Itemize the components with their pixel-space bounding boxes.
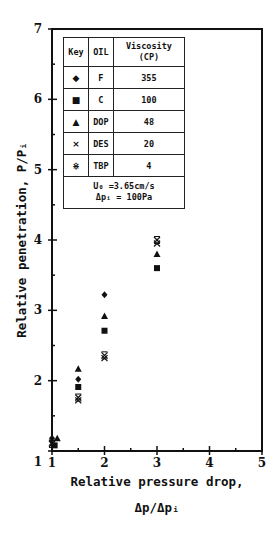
diamond-icon: ◆ — [64, 67, 89, 89]
x-mark-icon: × — [64, 133, 89, 155]
legend-oil: DOP — [89, 111, 114, 133]
x-tick-label: 2 — [100, 456, 108, 470]
legend-viscosity: 4 — [113, 155, 184, 177]
legend-row: ■C100 — [64, 89, 184, 111]
pressure-note: Δpᵢ = 100Pa — [64, 192, 184, 203]
square-icon: ■ — [64, 89, 89, 111]
asterisk-marker — [154, 237, 160, 244]
legend-oil: C — [89, 89, 114, 111]
legend-table: Key OIL Viscosity(CP) ◆F355 ■C100 ▲DOP48… — [63, 37, 185, 209]
legend-viscosity: 48 — [113, 111, 184, 133]
square-marker — [75, 384, 81, 390]
triangle-marker — [101, 312, 108, 319]
legend-viscosity: 20 — [113, 133, 184, 155]
data-points — [49, 237, 161, 449]
legend-viscosity: 100 — [113, 89, 184, 111]
velocity-note: U₀ =3.65cm/s — [64, 181, 184, 192]
y-tick-label: 5 — [34, 163, 42, 177]
legend-note: U₀ =3.65cm/s Δpᵢ = 100Pa — [64, 177, 184, 208]
legend-row: ×DES20 — [64, 133, 184, 155]
legend-oil: TBP — [89, 155, 114, 177]
corner-label: 1 — [34, 455, 42, 469]
legend-header-viscosity: Viscosity(CP) — [113, 38, 184, 67]
y-tick-label: 6 — [34, 92, 42, 106]
y-tick-label: 7 — [34, 22, 42, 36]
x-tick-label: 4 — [205, 456, 213, 470]
x-tick-label: 3 — [153, 456, 161, 470]
y-axis-title: Relative penetration, P/Pᵢ — [14, 142, 29, 338]
legend-row: ◆F355 — [64, 67, 184, 89]
triangle-marker — [154, 251, 161, 258]
viscosity-unit: (CP) — [139, 52, 159, 62]
y-tick-label: 2 — [34, 374, 42, 388]
legend-oil: F — [89, 67, 114, 89]
legend-row: ▲DOP48 — [64, 111, 184, 133]
x-axis-title-line2: Δp/Δpᵢ — [134, 500, 179, 515]
legend-viscosity: 355 — [113, 67, 184, 89]
viscosity-label: Viscosity — [126, 41, 172, 51]
x-axis-title-line1: Relative pressure drop, — [70, 474, 243, 489]
triangle-marker — [75, 365, 82, 372]
x-tick-label: 5 — [258, 456, 266, 470]
legend-oil: DES — [89, 133, 114, 155]
x-tick-label: 1 — [48, 456, 56, 470]
y-tick-label: 4 — [34, 233, 42, 247]
triangle-icon: ▲ — [64, 111, 89, 133]
square-marker — [102, 328, 108, 334]
diamond-marker — [75, 376, 81, 383]
legend-row: ⋇TBP4 — [64, 155, 184, 177]
y-tick-label: 3 — [34, 303, 42, 317]
square-marker — [154, 265, 160, 271]
legend-header-key: Key — [64, 38, 89, 67]
diamond-marker — [102, 291, 108, 298]
y-axis-ticks: 234567 — [34, 22, 57, 451]
x-axis-ticks: 12345 — [48, 446, 266, 470]
legend-header-oil: OIL — [89, 38, 114, 67]
asterisk-icon: ⋇ — [64, 155, 89, 177]
